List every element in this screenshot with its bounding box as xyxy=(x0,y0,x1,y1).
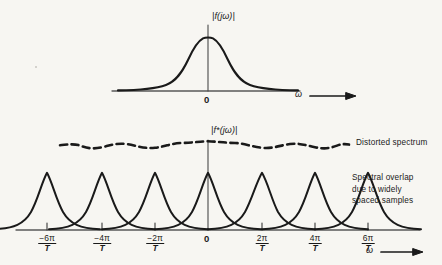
tick-numerator: −4π xyxy=(93,234,111,243)
figure-aliasing-spectrum: |f(jω)| 0 ω |f*(jω)| Distorted spectrum … xyxy=(0,0,442,265)
top-plot-spectrum-curve xyxy=(118,37,298,90)
tick-numerator: 2π xyxy=(256,234,269,243)
distorted-spectrum-label: Distorted spectrum xyxy=(356,138,427,147)
distorted-spectrum-curve xyxy=(60,141,349,148)
annotation-line: spaced samples xyxy=(352,195,414,207)
replica-lobe xyxy=(49,173,155,229)
bottom-plot-omega-arrow xyxy=(381,249,423,256)
top-plot-y-axis-label: |f(jω)| xyxy=(212,12,235,21)
replica-lobe xyxy=(155,173,261,229)
bottom-plot-tick-marks xyxy=(47,223,368,230)
tick-numerator: 6π xyxy=(362,234,375,243)
scan-speck xyxy=(35,66,37,68)
tick-denominator: T xyxy=(146,243,164,253)
tick-label-neg-2pi-over-T: −2π T xyxy=(146,234,164,252)
tick-denominator: T xyxy=(93,243,111,253)
tick-label-neg-4pi-over-T: −4π T xyxy=(93,234,111,252)
top-plot-origin-label: 0 xyxy=(204,95,209,105)
annotation-line: Spectral overlap xyxy=(352,172,414,184)
tick-denominator: T xyxy=(256,243,269,253)
tick-denominator: T xyxy=(309,243,322,253)
bottom-plot-y-axis-label: |f*(jω)| xyxy=(211,126,237,135)
bottom-plot-origin-label: 0 xyxy=(204,234,209,244)
tick-label-4pi-over-T: 4π T xyxy=(309,234,322,252)
replica-lobe xyxy=(102,173,208,229)
replica-lobe xyxy=(208,173,315,229)
top-plot-omega-arrow xyxy=(310,93,356,100)
bottom-plot-omega-symbol: ω xyxy=(366,246,373,255)
tick-numerator: 4π xyxy=(309,234,322,243)
tick-numerator: −2π xyxy=(146,234,164,243)
tick-denominator: T xyxy=(38,243,56,253)
replica-lobe xyxy=(0,173,100,229)
tick-label-2pi-over-T: 2π T xyxy=(256,234,269,252)
tick-label-neg-6pi-over-T: −6π T xyxy=(38,234,56,252)
annotation-line: due to widely xyxy=(352,184,414,196)
tick-numerator: −6π xyxy=(38,234,56,243)
spectral-overlap-annotation: Spectral overlap due to widely spaced sa… xyxy=(352,172,414,207)
top-plot-omega-symbol: ω xyxy=(295,90,302,99)
